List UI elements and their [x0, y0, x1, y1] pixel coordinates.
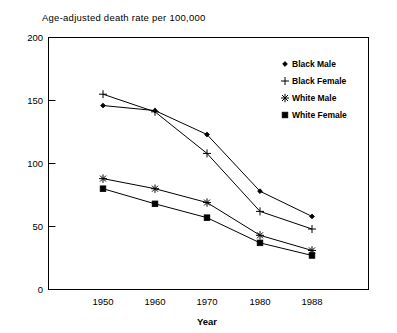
data-point-0-4: [310, 214, 315, 219]
legend-marker-3: [282, 112, 288, 118]
x-tick-label-1980: 1980: [249, 296, 270, 307]
data-point-1-0: [99, 90, 107, 98]
data-point-2-3: [256, 231, 264, 239]
y-axis-ticks: [49, 38, 56, 290]
data-point-3-3: [257, 240, 263, 246]
data-point-3-1: [152, 201, 158, 207]
line-chart-canvas: 200 150 100 50 0 1950 1960 1970 1980 198…: [0, 0, 397, 333]
legend-label-black-female: Black Female: [292, 76, 347, 86]
series-white-female: [100, 186, 315, 258]
chart-legend: Black Male Black Female White Male White…: [281, 59, 347, 120]
legend-label-white-male: White Male: [292, 93, 337, 103]
legend-label-white-female: White Female: [292, 110, 347, 120]
legend-label-black-male: Black Male: [292, 59, 336, 69]
x-axis-title: Year: [197, 316, 217, 327]
y-tick-label-100: 100: [27, 158, 43, 169]
series-line-1: [103, 94, 312, 229]
data-point-2-2: [203, 198, 211, 206]
y-tick-label-200: 200: [27, 32, 43, 43]
x-tick-label-1988: 1988: [301, 296, 322, 307]
y-tick-label-0: 0: [38, 284, 43, 295]
y-tick-label-50: 50: [32, 221, 43, 232]
data-point-0-0: [101, 103, 106, 108]
chart-figure: Age-adjusted death rate per 100,000 200 …: [0, 0, 397, 333]
legend-marker-0: [283, 62, 288, 67]
data-point-1-4: [308, 225, 316, 233]
legend-marker-2: [281, 94, 289, 102]
x-tick-label-1950: 1950: [92, 296, 113, 307]
data-point-2-1: [151, 185, 159, 193]
data-point-3-0: [100, 186, 106, 192]
legend-marker-1: [281, 77, 289, 85]
y-tick-label-150: 150: [27, 95, 43, 106]
series-black-female: [99, 90, 316, 233]
x-tick-label-1970: 1970: [196, 296, 217, 307]
data-point-2-0: [99, 174, 107, 182]
data-point-3-2: [204, 215, 210, 221]
data-point-3-4: [309, 253, 315, 259]
x-tick-label-1960: 1960: [144, 296, 165, 307]
